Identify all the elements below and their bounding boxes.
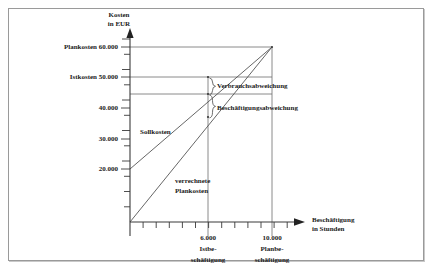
annotation-verbrauchsabweichung: Verbrauchsabweichung (217, 82, 288, 91)
brace-verbrauchsabweichung (210, 78, 216, 95)
node-plankosten (271, 46, 273, 48)
node-sollkosten-ist (207, 93, 209, 95)
x-axis-title-line2: in Stunden (312, 225, 345, 234)
node-istkosten (207, 76, 209, 78)
y-axis-arrowhead (126, 28, 133, 38)
annotation-verrechnete-plankosten-line1: verrechnete (175, 177, 210, 186)
y-axis-major-ticks (121, 47, 130, 169)
y-tick-label-50000: Istkosten 50.000 (28, 73, 118, 82)
x-axis-ticks (143, 222, 287, 228)
x-tick-label-10000-line2: Planbe- (242, 245, 302, 254)
x-tick-label-6000-line3: schäftigung (178, 256, 238, 265)
figure-canvas: Kosten in EUR Beschäftigung in Stunden P… (0, 0, 433, 275)
y-tick-label-60000: Plankosten 60.000 (28, 43, 118, 52)
y-axis-title-line1: Kosten (88, 11, 150, 20)
node-verrechnete-ist (207, 116, 209, 118)
annotation-beschaeftigungsabweichung: Beschäftigungsabweichung (217, 104, 298, 113)
x-tick-label-10000-line3: schäftigung (242, 256, 302, 265)
x-tick-label-6000-value: 6.000 (178, 234, 238, 243)
y-tick-label-20000: 20.000 (28, 165, 118, 174)
annotation-verrechnete-plankosten-line2: Plankosten (175, 187, 208, 196)
annotation-sollkosten: Sollkosten (140, 128, 171, 137)
brace-beschaeftigungsabweichung (210, 95, 216, 118)
x-axis-title-line1: Beschäftigung (312, 216, 354, 225)
x-axis-arrowhead (294, 218, 305, 225)
y-axis-ticks (122, 39, 130, 207)
y-tick-label-30000: 30.000 (28, 135, 118, 144)
x-tick-label-10000-value: 10.000 (242, 234, 302, 243)
y-axis-title-line2: in EUR (88, 20, 150, 29)
x-tick-label-6000-line2: Ist­be- (178, 245, 238, 254)
y-tick-label-40000: 40.000 (28, 104, 118, 113)
